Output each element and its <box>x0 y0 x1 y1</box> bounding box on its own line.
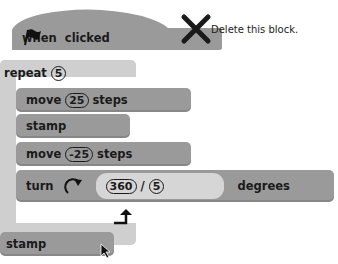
steps-input[interactable]: -25 <box>65 147 93 162</box>
stamp-block[interactable]: stamp <box>16 114 130 138</box>
stamp-block-bottom[interactable]: stamp <box>0 232 114 256</box>
delete-hint-text: Delete this block. <box>211 24 298 35</box>
division-operator: / <box>141 179 145 193</box>
turn-label: turn <box>26 179 54 193</box>
move-label: move <box>26 93 61 107</box>
x-delete-icon[interactable] <box>180 13 212 45</box>
move-steps-block-negative[interactable]: move -25 steps <box>16 142 191 166</box>
move-steps-block[interactable]: move 25 steps <box>16 88 191 112</box>
repeat-count-input[interactable]: 5 <box>51 66 67 81</box>
stamp-label: stamp <box>6 237 46 251</box>
steps-label: steps <box>93 93 128 107</box>
division-expression[interactable]: 360 / 5 <box>96 173 224 199</box>
loop-arrow-icon <box>112 208 136 226</box>
steps-label: steps <box>97 147 132 161</box>
repeat-block-arm <box>0 60 16 250</box>
mouse-pointer-icon <box>100 243 112 259</box>
green-flag-icon <box>22 28 42 46</box>
stamp-label: stamp <box>26 119 66 133</box>
dividend-input[interactable]: 360 <box>106 179 137 194</box>
clicked-label: clicked <box>65 31 110 45</box>
rotate-clockwise-icon <box>62 176 84 196</box>
repeat-label: repeat <box>4 66 47 80</box>
turn-degrees-block[interactable]: turn 360 / 5 degrees <box>16 170 334 202</box>
divisor-input[interactable]: 5 <box>149 179 165 194</box>
steps-input[interactable]: 25 <box>65 93 88 108</box>
degrees-label: degrees <box>238 179 290 193</box>
when-flag-clicked-block[interactable]: when clicked <box>12 8 182 50</box>
repeat-header: repeat 5 <box>4 62 70 84</box>
move-label: move <box>26 147 61 161</box>
